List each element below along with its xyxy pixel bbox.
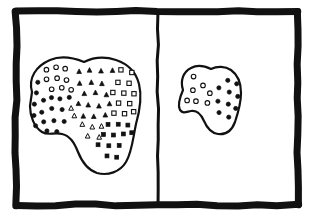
marker-filled-circle: [62, 119, 66, 123]
marker-filled-circle: [226, 78, 230, 82]
marker-open-square: [111, 90, 115, 94]
marker-open-square: [112, 111, 116, 115]
marker-open-circle: [44, 67, 49, 72]
marker-open-square: [119, 68, 123, 72]
marker-filled-square: [106, 122, 110, 126]
marker-open-square: [122, 91, 126, 95]
marker-filled-circle: [45, 129, 49, 133]
marker-open-circle: [201, 83, 206, 88]
marker-filled-circle: [60, 107, 64, 111]
panel-divider: [157, 12, 158, 204]
marker-filled-square: [115, 155, 119, 159]
marker-filled-square: [126, 123, 130, 127]
diagram-svg: [0, 0, 315, 219]
marker-filled-square: [111, 133, 115, 137]
marker-filled-circle: [227, 90, 231, 94]
marker-filled-circle: [216, 99, 220, 103]
marker-filled-square: [105, 154, 109, 158]
marker-filled-circle: [227, 115, 231, 119]
marker-open-circle: [44, 77, 49, 82]
marker-open-square: [128, 101, 132, 105]
marker-open-square: [116, 80, 120, 84]
marker-filled-circle: [235, 82, 239, 86]
marker-open-circle: [69, 87, 74, 92]
marker-filled-circle: [234, 106, 238, 110]
marker-filled-circle: [32, 102, 36, 106]
marker-filled-square: [130, 131, 134, 135]
marker-filled-circle: [32, 113, 36, 117]
marker-filled-circle: [42, 120, 46, 124]
marker-filled-circle: [36, 80, 40, 84]
marker-filled-circle: [50, 106, 54, 110]
marker-filled-square: [101, 133, 105, 137]
marker-open-square: [116, 101, 120, 105]
marker-filled-circle: [41, 98, 45, 102]
figure-canvas: [0, 0, 315, 219]
marker-open-circle: [191, 88, 196, 93]
marker-filled-circle: [217, 86, 221, 90]
marker-filled-circle: [34, 91, 38, 95]
marker-open-square: [122, 112, 126, 116]
marker-filled-circle: [58, 97, 62, 101]
marker-filled-square: [121, 132, 125, 136]
marker-filled-circle: [55, 130, 59, 134]
marker-filled-circle: [226, 102, 230, 106]
marker-filled-circle: [52, 119, 56, 123]
marker-open-circle: [59, 85, 64, 90]
marker-open-circle: [64, 78, 69, 83]
marker-open-square: [132, 92, 136, 96]
marker-open-circle: [208, 91, 213, 96]
marker-open-square: [130, 70, 134, 74]
marker-filled-square: [116, 122, 120, 126]
marker-filled-square: [96, 143, 100, 147]
marker-open-circle: [54, 65, 59, 70]
marker-open-circle: [191, 74, 196, 79]
marker-filled-circle: [67, 95, 71, 99]
marker-open-circle: [194, 99, 199, 104]
marker-open-circle: [205, 101, 210, 106]
marker-filled-circle: [217, 111, 221, 115]
marker-filled-circle: [236, 94, 240, 98]
marker-open-circle: [55, 76, 60, 81]
marker-open-circle: [63, 66, 68, 71]
marker-filled-circle: [40, 110, 44, 114]
marker-filled-circle: [33, 124, 37, 128]
marker-open-circle: [49, 87, 54, 92]
marker-open-square: [132, 110, 136, 114]
marker-filled-square: [117, 143, 121, 147]
marker-filled-circle: [49, 96, 53, 100]
marker-open-square: [127, 81, 131, 85]
marker-open-circle: [185, 98, 190, 103]
marker-filled-square: [107, 144, 111, 148]
